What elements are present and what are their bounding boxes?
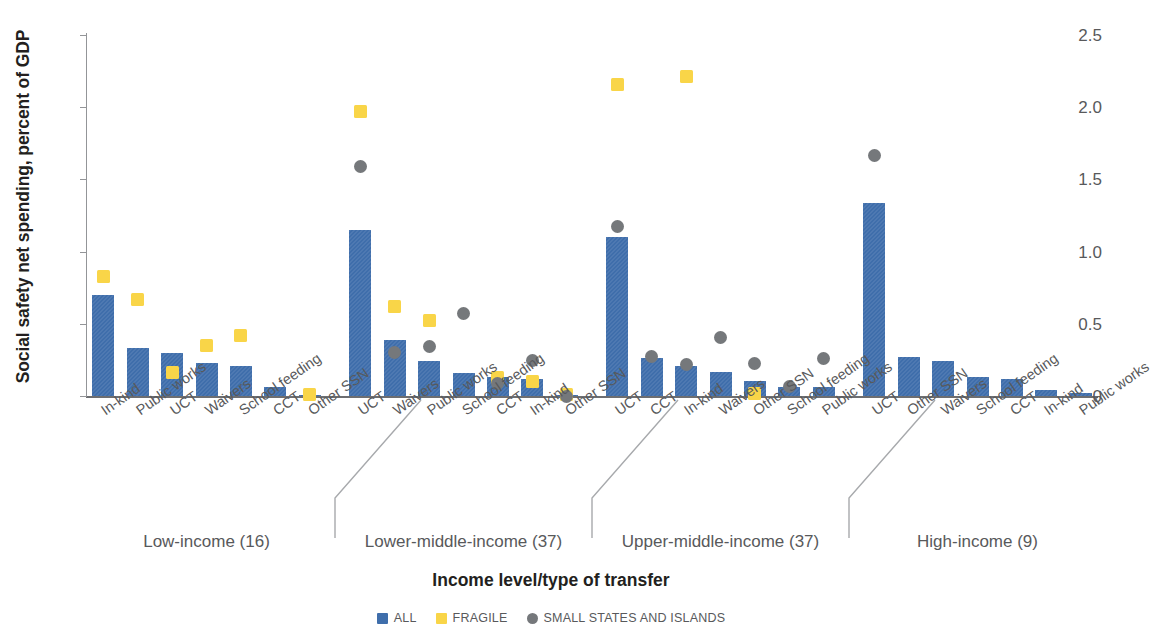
marker-small-states bbox=[817, 352, 830, 365]
marker-fragile bbox=[234, 329, 247, 342]
legend-circle-icon bbox=[527, 613, 538, 624]
group-label: Lower-middle-income (37) bbox=[343, 532, 584, 552]
group-label: Upper-middle-income (37) bbox=[600, 532, 841, 552]
legend-item[interactable]: SMALL STATES AND ISLANDS bbox=[527, 611, 726, 625]
marker-fragile bbox=[680, 70, 693, 83]
group-label: High-income (9) bbox=[857, 532, 1098, 552]
legend-square-icon bbox=[377, 613, 388, 624]
legend-label: FRAGILE bbox=[453, 611, 508, 625]
marker-fragile bbox=[611, 78, 624, 91]
marker-small-states bbox=[423, 340, 436, 353]
group-separator bbox=[847, 398, 937, 538]
legend-square-icon bbox=[436, 613, 447, 624]
marker-fragile bbox=[388, 300, 401, 313]
bar-all bbox=[898, 357, 920, 396]
plot-area bbox=[86, 35, 1098, 396]
marker-small-states bbox=[748, 357, 761, 370]
y-axis-title: Social safety net spending, percent of G… bbox=[13, 0, 34, 422]
marker-fragile bbox=[354, 105, 367, 118]
x-axis-title: Income level/type of transfer bbox=[0, 570, 1102, 591]
marker-fragile bbox=[526, 375, 539, 388]
legend-item[interactable]: ALL bbox=[377, 611, 417, 625]
marker-small-states bbox=[611, 220, 624, 233]
marker-fragile bbox=[200, 339, 213, 352]
group-separator bbox=[590, 398, 680, 538]
marker-small-states bbox=[680, 358, 693, 371]
chart-legend: ALLFRAGILESMALL STATES AND ISLANDS bbox=[0, 611, 1102, 625]
marker-small-states bbox=[868, 149, 881, 162]
marker-small-states bbox=[645, 350, 658, 363]
bar-all bbox=[92, 295, 114, 396]
marker-small-states bbox=[457, 307, 470, 320]
group-label: Low-income (16) bbox=[86, 532, 327, 552]
marker-small-states bbox=[714, 331, 727, 344]
marker-fragile bbox=[97, 270, 110, 283]
legend-item[interactable]: FRAGILE bbox=[436, 611, 508, 625]
marker-fragile bbox=[131, 293, 144, 306]
legend-label: ALL bbox=[394, 611, 417, 625]
marker-fragile bbox=[423, 314, 436, 327]
legend-label: SMALL STATES AND ISLANDS bbox=[544, 611, 726, 625]
marker-small-states bbox=[354, 160, 367, 173]
y-tick-mark bbox=[80, 396, 87, 397]
group-separator bbox=[333, 398, 423, 538]
bar-all bbox=[641, 358, 663, 396]
